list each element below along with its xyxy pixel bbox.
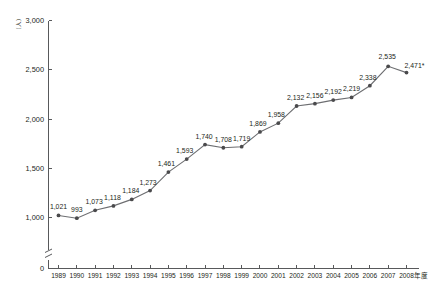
data-point-marker — [240, 145, 244, 149]
x-axis-unit-label: 年度 — [414, 271, 428, 280]
data-point-label: 2,471* — [405, 62, 425, 69]
data-point-labels: 1,0219931,0731,1181,1841,2731,4611,5931,… — [50, 53, 425, 213]
y-tick-label: 2,000 — [26, 115, 45, 124]
x-tick-label: 1992 — [106, 272, 121, 279]
x-tick-label: 2006 — [363, 272, 378, 279]
x-tick-label: 1989 — [51, 272, 66, 279]
data-point-marker — [276, 121, 280, 125]
data-point-label: 2,156 — [306, 92, 323, 99]
y-axis-title: （人） — [16, 15, 22, 33]
data-point-marker — [93, 208, 97, 212]
chart-canvas: 3,0002,5002,0001,5001,0000（人）19891990199… — [0, 0, 434, 302]
data-point-label: 1,958 — [268, 111, 285, 118]
y-tick-label: 1,500 — [26, 164, 45, 173]
svg-text:（人）: （人） — [16, 15, 22, 33]
y-tick-label: 2,500 — [26, 65, 45, 74]
data-point-label: 1,461 — [158, 160, 175, 167]
x-tick-label: 1998 — [216, 272, 231, 279]
data-point-marker — [185, 157, 189, 161]
data-point-label: 993 — [71, 206, 83, 213]
data-point-label: 1,184 — [122, 187, 139, 194]
x-tick-label: 1990 — [69, 272, 84, 279]
x-tick-label: 1991 — [88, 272, 103, 279]
y-tick-label: 1,000 — [26, 213, 45, 222]
data-point-label: 2,192 — [325, 88, 342, 95]
data-point-label: 1,740 — [195, 133, 212, 140]
data-point-marker — [75, 216, 79, 220]
axis-break-symbol — [45, 249, 52, 258]
data-point-label: 1,719 — [233, 135, 250, 142]
data-point-marker — [313, 102, 317, 106]
y-tick-label: 3,000 — [26, 16, 45, 25]
data-point-label: 2,535 — [379, 53, 396, 60]
data-point-label: 2,219 — [343, 85, 360, 92]
data-point-label: 2,132 — [287, 94, 304, 101]
x-tick-label: 2003 — [308, 272, 323, 279]
data-point-label: 1,273 — [139, 179, 156, 186]
x-tick-label: 2008 — [399, 272, 414, 279]
x-tick-label: 2000 — [253, 272, 268, 279]
data-point-marker — [405, 71, 409, 75]
data-point-label: 1,021 — [50, 203, 67, 210]
x-tick-label: 1995 — [161, 272, 176, 279]
x-tick-label: 1996 — [179, 272, 194, 279]
data-point-marker — [221, 146, 225, 150]
x-tick-label: 2005 — [344, 272, 359, 279]
data-point-marker — [130, 197, 134, 201]
x-tick-label: 1999 — [234, 272, 249, 279]
x-tick-label: 1993 — [124, 272, 139, 279]
line-chart-figure: 3,0002,5002,0001,5001,0000（人）19891990199… — [0, 0, 434, 302]
data-point-marker — [57, 214, 61, 218]
x-tick-label: 2001 — [271, 272, 286, 279]
data-point-label: 1,593 — [176, 147, 193, 154]
x-tick-label: 2004 — [326, 272, 341, 279]
data-point-marker — [166, 170, 170, 174]
x-tick-label: 2002 — [289, 272, 304, 279]
data-point-marker — [350, 96, 354, 100]
data-point-label: 1,708 — [215, 136, 232, 143]
x-axis-ticks: 1989199019911992199319941995199619971998… — [51, 265, 414, 279]
data-point-marker — [331, 98, 335, 102]
data-point-label: 1,118 — [104, 194, 121, 201]
x-tick-label: 1994 — [143, 272, 158, 279]
data-point-label: 1,869 — [249, 120, 266, 127]
data-point-marker — [386, 64, 390, 68]
x-tick-label: 1997 — [198, 272, 213, 279]
data-point-label: 1,073 — [86, 198, 103, 205]
x-tick-label: 2007 — [381, 272, 396, 279]
data-point-label: 2,338 — [359, 74, 376, 81]
data-point-marker — [148, 189, 152, 193]
data-point-marker — [295, 104, 299, 108]
data-point-marker — [112, 204, 116, 208]
y-zero-label: 0 — [40, 264, 44, 273]
data-point-marker — [368, 84, 372, 88]
data-point-marker — [258, 130, 262, 134]
data-point-marker — [203, 143, 207, 147]
